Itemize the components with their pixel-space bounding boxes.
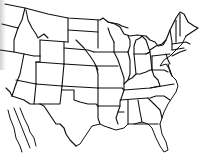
az-nm-border (34, 84, 36, 104)
va-wv-border (152, 70, 160, 86)
state-borders-west (0, 8, 68, 104)
ca-az-border (6, 88, 12, 96)
southwest-border (12, 96, 40, 104)
wy-co-border (36, 62, 64, 64)
national-outline (5, 4, 198, 152)
ok-panhandle-tx (62, 90, 98, 106)
ky-tn-border (124, 86, 160, 90)
ut-az-border (16, 80, 36, 84)
nm-tx-border (40, 86, 62, 104)
gulf-coast (76, 124, 110, 146)
wa-id-border (18, 8, 25, 28)
tx-la-border (98, 106, 100, 124)
wv-md-border (152, 70, 168, 72)
ny-vt-border (170, 30, 172, 50)
lake-michigan-west (128, 36, 130, 52)
wa-or-border (2, 24, 18, 28)
nv-az-border (12, 84, 16, 96)
co-ks-border (62, 64, 64, 86)
nd-sd-border (68, 30, 98, 32)
al-ga-border (138, 100, 142, 122)
texas-mexico-border (40, 104, 76, 146)
ne-ks-border (64, 64, 96, 66)
ny-nj-border (166, 54, 170, 64)
us-state-border-map (0, 0, 212, 161)
ga-sc-border (148, 98, 162, 118)
il-in-border (128, 52, 130, 80)
california-coast-fragment (8, 110, 22, 152)
gulf-of-california-coast (20, 108, 36, 146)
or-id-border (14, 28, 18, 52)
pa-ny-border (152, 54, 170, 56)
sd-ne-border (64, 48, 94, 52)
mn-wi-border (108, 28, 114, 42)
ks-ok-border (62, 86, 98, 88)
california-remnants (6, 88, 36, 152)
east-coast (160, 36, 186, 124)
va-nc-border (150, 84, 174, 88)
state-borders-northeast (150, 14, 190, 76)
nv-ut-border (16, 54, 24, 84)
michigan-lower-peninsula (134, 36, 150, 54)
id-nv-ut-border (24, 54, 40, 56)
ohio-river (124, 70, 152, 84)
nc-sc-border (150, 96, 170, 100)
co-nm-border (36, 84, 62, 86)
id-mt-border (26, 10, 48, 38)
oh-pa-border (146, 52, 152, 70)
in-oh-border (134, 54, 136, 74)
mo-ar-border (98, 88, 124, 90)
florida-coast (110, 122, 168, 152)
long-island (172, 50, 186, 56)
state-borders-central (62, 20, 124, 124)
delmarva (168, 64, 172, 76)
tn-south-border (120, 98, 148, 100)
ma-border (172, 42, 190, 44)
ut-wy-border (36, 56, 40, 62)
or-ca-nv-border (0, 50, 24, 54)
great-lakes-border (108, 12, 198, 46)
